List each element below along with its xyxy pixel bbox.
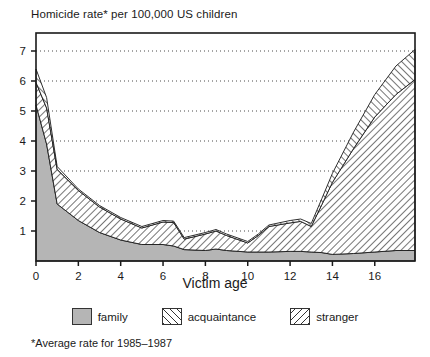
svg-text:4: 4 — [20, 135, 27, 147]
svg-text:5: 5 — [20, 105, 26, 117]
svg-text:7: 7 — [20, 45, 26, 57]
chart-plot-area: 12345670246810121416 — [0, 0, 430, 300]
svg-text:1: 1 — [20, 225, 26, 237]
chart-footnote: *Average rate for 1985–1987 — [31, 337, 172, 349]
legend-swatch-family-icon — [72, 308, 92, 325]
legend-item-acquaintance: acquaintance — [162, 308, 256, 325]
legend-swatch-stranger-icon — [290, 308, 310, 325]
svg-text:3: 3 — [20, 165, 26, 177]
svg-text:2: 2 — [20, 195, 26, 207]
legend-swatch-acquaintance-icon — [162, 308, 182, 325]
legend-label-family: family — [98, 311, 128, 323]
legend-label-acquaintance: acquaintance — [188, 311, 256, 323]
legend-label-stranger: stranger — [316, 311, 358, 323]
chart-legend: family acquaintance stranger — [0, 308, 430, 325]
legend-item-stranger: stranger — [290, 308, 358, 325]
x-axis-label: Victim age — [0, 275, 430, 291]
svg-text:6: 6 — [20, 75, 26, 87]
legend-item-family: family — [72, 308, 128, 325]
stacked-area-chart: 12345670246810121416 — [0, 0, 430, 300]
